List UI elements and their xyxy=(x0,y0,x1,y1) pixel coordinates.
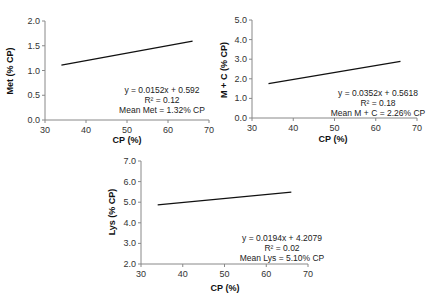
y-axis-label: Lys (% CP) xyxy=(107,189,117,236)
scatter-points xyxy=(269,0,401,84)
y-ticks: 0.00.51.01.52.0 xyxy=(27,16,45,125)
y-tick-label: 1.0 xyxy=(27,66,40,76)
y-tick-label: 0.5 xyxy=(27,90,40,100)
x-axis-label: CP (%) xyxy=(211,283,240,293)
x-tick-label: 60 xyxy=(371,123,381,133)
x-tick-label: 50 xyxy=(329,123,339,133)
x-tick-label: 30 xyxy=(40,125,50,135)
y-tick-label: 4.0 xyxy=(234,35,247,45)
x-tick-label: 30 xyxy=(136,269,146,279)
y-tick-label: 5.0 xyxy=(123,197,136,207)
x-ticks: 3040506070 xyxy=(40,120,214,135)
y-tick-label: 7.0 xyxy=(123,156,136,166)
trendline xyxy=(61,41,192,65)
x-tick-label: 60 xyxy=(163,125,173,135)
y-tick-label: 2.0 xyxy=(234,74,247,84)
y-ticks: 0.01.02.03.04.05.0 xyxy=(234,15,252,123)
x-tick-label: 70 xyxy=(303,269,313,279)
y-axis-label: M + C (% CP) xyxy=(219,42,229,98)
trendline xyxy=(269,61,401,83)
y-tick-label: 0.0 xyxy=(234,113,247,123)
y-tick-label: 5.0 xyxy=(234,15,247,25)
equation-annotation: y = 0.0352x + 0.5618 xyxy=(338,88,418,98)
y-axis-label: Met (% CP) xyxy=(5,47,15,94)
x-tick-label: 50 xyxy=(122,125,132,135)
mean-annotation: Mean Met = 1.32% CP xyxy=(119,105,205,115)
y-tick-label: 4.0 xyxy=(123,218,136,228)
x-tick-label: 50 xyxy=(219,269,229,279)
x-tick-label: 40 xyxy=(288,123,298,133)
scatter-points xyxy=(61,0,192,84)
figure: 0.00.51.01.52.0 3040506070 CP (%) Met (%… xyxy=(0,0,434,305)
x-tick-label: 40 xyxy=(178,269,188,279)
y-ticks: 2.03.04.05.06.07.0 xyxy=(123,156,141,269)
mean-annotation: Mean Lys = 5.10% CP xyxy=(240,253,325,263)
chart-met: 0.00.51.01.52.0 3040506070 CP (%) Met (%… xyxy=(5,0,214,145)
mean-annotation: Mean M + C = 2.26% CP xyxy=(331,108,426,118)
r2-annotation: R² = 0.02 xyxy=(264,243,299,253)
y-tick-label: 2.0 xyxy=(123,259,136,269)
y-tick-label: 6.0 xyxy=(123,177,136,187)
y-tick-label: 1.5 xyxy=(27,41,40,51)
x-tick-label: 60 xyxy=(261,269,271,279)
chart-mc: 0.01.02.03.04.05.0 3040506070 CP (%) M +… xyxy=(219,0,426,144)
x-tick-label: 70 xyxy=(412,123,422,133)
y-tick-label: 3.0 xyxy=(234,54,247,64)
y-tick-label: 3.0 xyxy=(123,238,136,248)
r2-annotation: R² = 0.18 xyxy=(360,98,395,108)
chart-lys: 2.03.04.05.06.07.0 3040506070 CP (%) Lys… xyxy=(107,0,325,293)
x-ticks: 3040506070 xyxy=(136,264,313,279)
x-tick-label: 70 xyxy=(204,125,214,135)
y-tick-label: 1.0 xyxy=(234,93,247,103)
x-axis-label: CP (%) xyxy=(113,135,142,145)
y-tick-label: 2.0 xyxy=(27,16,40,26)
x-tick-label: 30 xyxy=(247,123,257,133)
y-tick-label: 0.0 xyxy=(27,115,40,125)
r2-annotation: R² = 0.12 xyxy=(144,95,179,105)
x-tick-label: 40 xyxy=(81,125,91,135)
trendline xyxy=(158,192,292,205)
x-axis-label: CP (%) xyxy=(319,134,348,144)
equation-annotation: y = 0.0152x + 0.592 xyxy=(124,85,199,95)
x-ticks: 3040506070 xyxy=(247,118,422,133)
equation-annotation: y = 0.0194x + 4.2079 xyxy=(242,233,322,243)
